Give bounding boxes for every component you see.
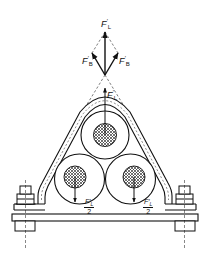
force-diagram	[0, 0, 210, 255]
label-subscript: L	[150, 201, 153, 207]
fraction-denominator: 2	[84, 208, 94, 215]
lift-force-top-label: F′L	[101, 18, 111, 30]
bottom-right-cable	[106, 154, 156, 204]
label-subscript: L	[108, 24, 111, 30]
bundle-force-right-label: F′B	[119, 55, 130, 67]
bundle-force-left-label: F′B	[82, 55, 93, 67]
half-force-right-label: F′L 2	[143, 198, 153, 215]
bottom-left-cable	[55, 154, 105, 204]
fraction-numerator: F′L	[143, 198, 153, 208]
half-force-left-label: F′L 2	[84, 198, 94, 215]
fraction-numerator: F′L	[84, 198, 94, 208]
label-subscript: L	[114, 95, 117, 101]
label-subscript: L	[91, 201, 94, 207]
bundle-force-left-arrow	[92, 53, 105, 75]
base-plate	[12, 214, 198, 221]
bundle-force-right-arrow	[105, 53, 118, 75]
label-subscript: B	[126, 61, 130, 67]
fraction-denominator: 2	[143, 208, 153, 215]
label-subscript: B	[89, 61, 93, 67]
lift-force-inner-label: F′L	[107, 89, 117, 101]
